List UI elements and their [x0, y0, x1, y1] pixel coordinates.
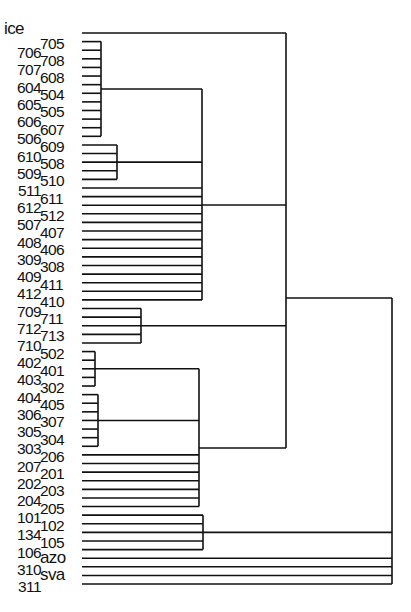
- leaf-label: 307: [40, 414, 64, 430]
- leaf-label: 506: [0, 131, 41, 147]
- leaf-label: sva: [40, 566, 65, 583]
- leaf-label: 606: [0, 114, 41, 130]
- leaf-label: 407: [40, 225, 64, 241]
- leaf-label: 206: [40, 449, 64, 465]
- leaf-label: 402: [0, 355, 41, 371]
- leaf-label: 106: [0, 545, 41, 561]
- leaf-label: 302: [40, 380, 64, 396]
- leaf-label: 711: [40, 311, 63, 327]
- leaf-label: 102: [40, 518, 64, 534]
- leaf-label: 510: [40, 173, 64, 189]
- leaf-label: 604: [0, 80, 41, 96]
- leaf-label: 401: [40, 363, 64, 379]
- leaf-label: 508: [40, 156, 64, 172]
- leaf-label: 404: [0, 390, 41, 406]
- leaf-label: 305: [0, 424, 41, 440]
- leaf-label: 205: [40, 501, 64, 517]
- leaf-label: 611: [40, 191, 63, 207]
- leaf-label: 412: [0, 286, 41, 302]
- leaf-label: 709: [0, 304, 41, 320]
- leaf-label: ice: [4, 20, 24, 37]
- leaf-label: 706: [0, 45, 41, 61]
- leaf-label: 713: [40, 328, 64, 344]
- leaf-label: 303: [0, 441, 41, 457]
- leaf-label: 403: [0, 372, 41, 388]
- leaf-label: 309: [0, 252, 41, 268]
- leaf-label: 202: [0, 476, 41, 492]
- leaf-label: 707: [0, 62, 41, 78]
- leaf-label: 610: [0, 149, 41, 165]
- leaf-label: 505: [40, 104, 64, 120]
- leaf-label: 511: [0, 183, 41, 199]
- leaf-label: 204: [0, 493, 41, 509]
- leaf-label: 712: [0, 321, 41, 337]
- leaf-labels: ice7057067087076086045046055056066075066…: [0, 0, 411, 612]
- leaf-label: 512: [40, 208, 64, 224]
- leaf-label: 406: [40, 242, 64, 258]
- leaf-label: 304: [40, 432, 64, 448]
- leaf-label: 509: [0, 166, 41, 182]
- leaf-label: 710: [0, 338, 41, 354]
- leaf-label: 504: [40, 87, 64, 103]
- leaf-label: 201: [40, 466, 64, 482]
- leaf-label: 411: [40, 277, 63, 293]
- leaf-label: 306: [0, 407, 41, 423]
- leaf-label: 408: [0, 235, 41, 251]
- leaf-label: azo: [40, 549, 66, 566]
- leaf-label: 608: [40, 70, 64, 86]
- leaf-label: 134: [0, 527, 41, 543]
- leaf-label: 612: [0, 200, 41, 216]
- leaf-label: 708: [40, 53, 64, 69]
- leaf-label: 203: [40, 483, 64, 499]
- leaf-label: 607: [40, 122, 64, 138]
- leaf-label: 308: [40, 259, 64, 275]
- leaf-label: 405: [40, 397, 64, 413]
- leaf-label: 311: [0, 579, 41, 595]
- leaf-label: 609: [40, 139, 64, 155]
- leaf-label: 705: [40, 36, 64, 52]
- leaf-label: 605: [0, 97, 41, 113]
- leaf-label: 101: [0, 510, 41, 526]
- leaf-label: 410: [40, 294, 64, 310]
- leaf-label: 310: [0, 562, 41, 578]
- leaf-label: 207: [0, 459, 41, 475]
- leaf-label: 502: [40, 346, 64, 362]
- leaf-label: 409: [0, 269, 41, 285]
- leaf-label: 507: [0, 217, 41, 233]
